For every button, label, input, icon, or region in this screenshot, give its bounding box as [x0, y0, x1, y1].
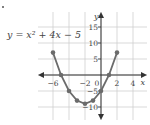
parabola-chart: xy−6−202415105−5−10 y = x² + 4x − 5 [0, 0, 150, 125]
x-axis-label: x [140, 78, 145, 87]
data-point-marker [75, 98, 80, 103]
equation-label: y = x² + 4x − 5 [6, 29, 81, 40]
data-point-marker [99, 89, 104, 94]
data-point-marker [115, 50, 120, 55]
data-point-marker [107, 73, 112, 78]
data-point-marker [67, 89, 72, 94]
x-tick-label: −6 [47, 79, 58, 88]
y-axis-label: y [93, 12, 99, 21]
x-tick-label: 2 [115, 79, 120, 88]
y-tick-label: −5 [87, 87, 98, 96]
data-point-marker [51, 50, 56, 55]
data-point-marker [91, 98, 96, 103]
data-point-marker [83, 102, 88, 107]
y-tick-label: 15 [88, 23, 98, 32]
x-tick-label: 4 [131, 79, 136, 88]
y-tick-label: 5 [93, 55, 98, 64]
y-tick-label: 10 [88, 39, 98, 48]
data-point-marker [59, 73, 64, 78]
